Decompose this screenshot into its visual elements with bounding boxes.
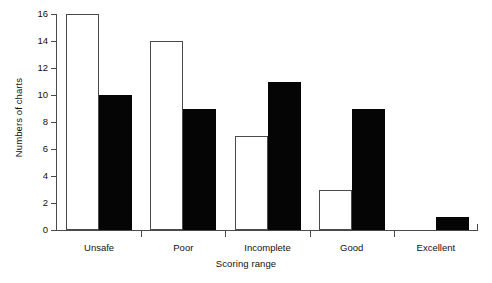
- x-axis-category-label: Unsafe: [84, 242, 114, 253]
- y-axis-tick-label: 10: [37, 89, 48, 100]
- bar-filled-poor: [183, 109, 216, 231]
- plot-area: 0246810121416UnsafePoorIncompleteGoodExc…: [57, 14, 478, 230]
- x-axis-tick: [141, 231, 142, 237]
- x-axis-right-endcap: [477, 224, 478, 231]
- y-axis-tick: 6: [51, 149, 57, 150]
- bar-filled-unsafe: [99, 95, 132, 230]
- y-axis-tick: 4: [51, 176, 57, 177]
- x-axis-line: [56, 230, 478, 231]
- y-axis-tick-label: 12: [37, 62, 48, 73]
- x-axis-title: Scoring range: [0, 258, 492, 269]
- x-axis-tick: [225, 231, 226, 237]
- bar-filled-excellent: [436, 217, 469, 231]
- y-axis-tick-label: 0: [43, 224, 48, 235]
- y-axis-title: Numbers of charts: [13, 58, 24, 178]
- y-axis-tick: 8: [51, 122, 57, 123]
- x-axis-category-label: Incomplete: [244, 242, 290, 253]
- y-axis-tick-label: 2: [43, 197, 48, 208]
- y-axis-tick: 16: [51, 14, 57, 15]
- x-axis-category-label: Poor: [173, 242, 193, 253]
- y-axis-tick: 0: [51, 230, 57, 231]
- y-axis-tick-label: 16: [37, 8, 48, 19]
- y-axis-tick-label: 4: [43, 170, 48, 181]
- y-axis-tick-label: 6: [43, 143, 48, 154]
- y-axis-tick: 14: [51, 41, 57, 42]
- y-axis-tick-label: 14: [37, 35, 48, 46]
- x-axis-tick: [394, 231, 395, 237]
- y-axis-tick-label: 8: [43, 116, 48, 127]
- x-axis-category-label: Good: [340, 242, 363, 253]
- bar-open-incomplete: [235, 136, 268, 231]
- bar-open-good: [319, 190, 352, 231]
- bar-chart: Numbers of charts 0246810121416UnsafePoo…: [0, 0, 492, 283]
- y-axis-tick: 2: [51, 203, 57, 204]
- x-axis-category-label: Excellent: [417, 242, 456, 253]
- x-axis-tick: [310, 231, 311, 237]
- bar-filled-good: [352, 109, 385, 231]
- y-axis-tick: 12: [51, 68, 57, 69]
- bar-open-unsafe: [66, 14, 99, 230]
- y-axis-tick: 10: [51, 95, 57, 96]
- bar-open-poor: [150, 41, 183, 230]
- bar-filled-incomplete: [268, 82, 301, 231]
